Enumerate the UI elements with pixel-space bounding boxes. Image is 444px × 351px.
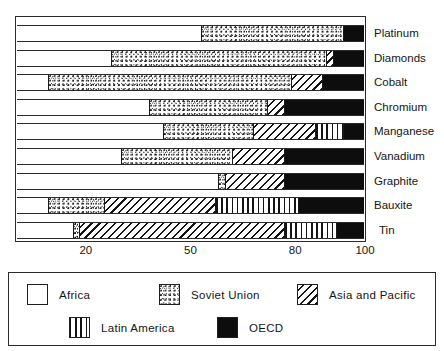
bar-row xyxy=(17,50,364,67)
legend-swatch-asia-and-pacific xyxy=(297,284,318,305)
bar-segment xyxy=(17,124,163,139)
bar-segment xyxy=(336,223,364,238)
stacked-bars-container xyxy=(16,17,365,241)
legend-item-latin-america[interactable]: Latin America xyxy=(69,317,175,338)
bar-segment xyxy=(17,223,73,238)
x-tick-100: 100 xyxy=(355,244,374,256)
bar-row xyxy=(17,123,364,140)
bar-segment xyxy=(121,149,232,164)
bar-segment xyxy=(17,149,121,164)
bar-segment xyxy=(201,26,343,41)
bar-segment xyxy=(343,124,364,139)
category-label-graphite: Graphite xyxy=(374,175,418,187)
bar-segment xyxy=(284,174,364,189)
legend-swatch-latin-america xyxy=(69,317,90,338)
bar-segment xyxy=(79,223,284,238)
category-label-vanadium: Vanadium xyxy=(374,150,425,162)
bar-segment xyxy=(232,149,284,164)
bar-segment xyxy=(17,100,149,115)
x-tick-20: 20 xyxy=(79,244,92,256)
bar-segment xyxy=(322,75,364,90)
legend-label: Asia and Pacific xyxy=(329,289,416,301)
bar-segment xyxy=(267,100,284,115)
bar-segment xyxy=(163,124,253,139)
bar-row xyxy=(17,197,364,214)
category-label-tin: Tin xyxy=(379,224,395,236)
category-label-cobalt: Cobalt xyxy=(374,76,407,88)
chart-legend: AfricaSoviet UnionAsia and PacificLatin … xyxy=(8,272,436,346)
bar-segment xyxy=(73,223,80,238)
bar-row xyxy=(17,148,364,165)
legend-item-asia-and-pacific[interactable]: Asia and Pacific xyxy=(297,284,416,305)
legend-label: OECD xyxy=(249,322,283,334)
legend-item-oecd[interactable]: OECD xyxy=(217,317,283,338)
legend-swatch-soviet-union xyxy=(159,284,180,305)
bar-segment xyxy=(315,124,343,139)
bar-segment xyxy=(17,26,201,41)
legend-swatch-oecd xyxy=(217,317,238,338)
bar-segment xyxy=(284,149,364,164)
chart-plot-area xyxy=(15,16,366,242)
bar-segment xyxy=(149,100,267,115)
bar-segment xyxy=(111,51,326,66)
bar-row xyxy=(17,173,364,190)
legend-swatch-africa xyxy=(27,284,48,305)
x-tick-50: 50 xyxy=(184,244,197,256)
category-label-manganese: Manganese xyxy=(374,125,434,137)
bar-segment xyxy=(17,198,48,213)
legend-label: Africa xyxy=(59,289,90,301)
category-label-platinum: Platinum xyxy=(374,27,419,39)
bar-segment xyxy=(48,198,104,213)
bar-segment xyxy=(333,51,364,66)
bar-segment xyxy=(225,174,284,189)
category-label-bauxite: Bauxite xyxy=(374,199,412,211)
bar-row xyxy=(17,74,364,91)
category-label-chromium: Chromium xyxy=(374,101,427,113)
bar-segment xyxy=(343,26,364,41)
legend-label: Soviet Union xyxy=(191,289,260,301)
bar-segment xyxy=(17,174,218,189)
bar-segment xyxy=(104,198,215,213)
legend-item-africa[interactable]: Africa xyxy=(27,284,90,305)
bar-segment xyxy=(284,223,336,238)
bar-segment xyxy=(218,174,225,189)
category-label-diamonds: Diamonds xyxy=(374,52,426,64)
x-axis-tick-labels: 205080100 xyxy=(15,244,366,262)
bar-row xyxy=(17,25,364,42)
bar-segment xyxy=(326,51,333,66)
bar-segment xyxy=(291,75,322,90)
bar-segment xyxy=(17,51,111,66)
bar-row xyxy=(17,222,364,239)
bar-segment xyxy=(215,198,298,213)
category-label-list: PlatinumDiamondsCobaltChromiumManganeseV… xyxy=(374,16,444,242)
legend-label: Latin America xyxy=(101,322,175,334)
bar-segment xyxy=(48,75,291,90)
bar-segment xyxy=(298,198,364,213)
bar-row xyxy=(17,99,364,116)
bar-segment xyxy=(253,124,315,139)
x-tick-80: 80 xyxy=(289,244,302,256)
bar-segment xyxy=(284,100,364,115)
legend-item-soviet-union[interactable]: Soviet Union xyxy=(159,284,260,305)
bar-segment xyxy=(17,75,48,90)
